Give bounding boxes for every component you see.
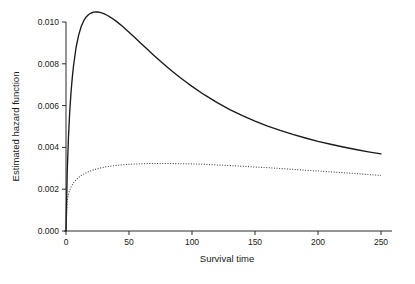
series-line-dotted bbox=[66, 163, 381, 231]
chart-canvas: 0.0000.0020.0040.0060.0080.010 050100150… bbox=[0, 0, 415, 284]
x-axis-tick-label: 250 bbox=[374, 237, 388, 247]
y-axis-tick-group: 0.0000.0020.0040.0060.0080.010 bbox=[38, 17, 66, 236]
x-axis-tick-label: 100 bbox=[185, 237, 199, 247]
x-axis-tick-label: 0 bbox=[64, 237, 69, 247]
y-axis-tick-label: 0.006 bbox=[38, 101, 60, 111]
y-axis-tick-label: 0.010 bbox=[38, 17, 60, 27]
y-axis-tick-label: 0.004 bbox=[38, 142, 60, 152]
x-axis-tick-label: 150 bbox=[248, 237, 262, 247]
x-axis-title: Survival time bbox=[200, 253, 254, 264]
x-axis-tick-label: 50 bbox=[124, 237, 134, 247]
x-axis-tick-group: 050100150200250 bbox=[64, 231, 389, 247]
y-axis-title: Estimated hazard function bbox=[10, 72, 21, 182]
series-line-solid bbox=[66, 12, 381, 231]
hazard-function-chart: 0.0000.0020.0040.0060.0080.010 050100150… bbox=[0, 0, 415, 284]
x-axis-tick-label: 200 bbox=[311, 237, 325, 247]
y-axis-tick-label: 0.000 bbox=[38, 226, 60, 236]
y-axis-tick-label: 0.008 bbox=[38, 59, 60, 69]
y-axis-tick-label: 0.002 bbox=[38, 184, 60, 194]
